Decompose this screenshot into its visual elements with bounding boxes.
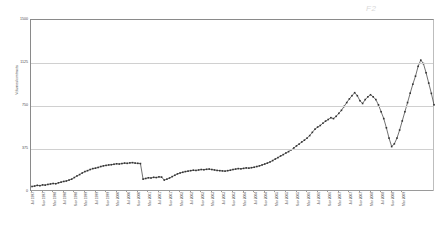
x-axis-tick-label: Nov 2007 xyxy=(360,192,364,206)
x-axis-tick-label: Jul 2003 xyxy=(223,192,227,204)
x-axis-tick-label: Jul 1998 xyxy=(64,192,68,204)
x-axis-tick-label: Nov 2005 xyxy=(297,192,301,206)
gridline xyxy=(31,149,433,150)
x-axis-tick-labels: Jul 1997Nov 1997Mar 1998Jul 1998Nov 1998… xyxy=(30,192,434,230)
x-axis-tick-label: Jul 1997 xyxy=(32,192,36,204)
x-axis-tick-label: Nov 2004 xyxy=(265,192,269,206)
x-axis-tick-label: Jul 2002 xyxy=(191,192,195,204)
x-axis-tick-label: Nov 2008 xyxy=(392,192,396,206)
x-axis-tick-label: Mar 2006 xyxy=(308,192,312,206)
gridline xyxy=(31,106,433,107)
x-axis-tick-label: Nov 2006 xyxy=(329,192,333,206)
x-axis-tick-label: Mar 2002 xyxy=(181,192,185,206)
x-axis-tick-label: Jul 2005 xyxy=(286,192,290,204)
x-axis-tick-label: Jul 2004 xyxy=(255,192,259,204)
plot-area xyxy=(30,19,434,191)
y-axis-tick-label: 0 xyxy=(0,189,28,193)
y-axis-tick-label: 375 xyxy=(0,146,28,150)
y-axis-tick-labels: 150011257503750 xyxy=(0,19,28,191)
x-axis-tick-label: Nov 1998 xyxy=(75,192,79,206)
x-axis-tick-label: Mar 2008 xyxy=(371,192,375,206)
x-axis-tick-label: Nov 1997 xyxy=(43,192,47,206)
x-axis-tick-label: Nov 2003 xyxy=(233,192,237,206)
x-axis-tick-label: Nov 1999 xyxy=(107,192,111,206)
x-axis-tick-label: Mar 2003 xyxy=(212,192,216,206)
x-axis-tick-label: Jul 1999 xyxy=(96,192,100,204)
y-axis-tick-label: 750 xyxy=(0,103,28,107)
x-axis-tick-label: Nov 2002 xyxy=(202,192,206,206)
chart-page: F2 150011257503750 Volumes/contracts Jul… xyxy=(0,0,448,231)
gridline xyxy=(31,63,433,64)
x-axis-tick-label: Mar 1999 xyxy=(85,192,89,206)
x-axis-tick-label: Mar 2009 xyxy=(403,192,407,206)
x-axis-tick-label: Jul 2007 xyxy=(350,192,354,204)
x-axis-tick-label: Mar 2007 xyxy=(339,192,343,206)
y-axis-tick-label: 1500 xyxy=(0,17,28,21)
x-axis-tick-label: Jul 2001 xyxy=(159,192,163,204)
x-axis-tick-label: Nov 2001 xyxy=(170,192,174,206)
x-axis-tick-label: Mar 2004 xyxy=(244,192,248,206)
x-axis-tick-label: Jul 2000 xyxy=(128,192,132,204)
x-axis-tick-label: Jul 2008 xyxy=(382,192,386,204)
x-axis-tick-label: Nov 2000 xyxy=(138,192,142,206)
y-axis-tick-label: 1125 xyxy=(0,60,28,64)
x-axis-tick-label: Mar 2000 xyxy=(117,192,121,206)
x-axis-tick-label: Mar 2005 xyxy=(276,192,280,206)
watermark-label: F2 xyxy=(366,4,376,13)
x-axis-tick-label: Mar 2001 xyxy=(149,192,153,206)
x-axis-tick-label: Mar 1998 xyxy=(54,192,58,206)
x-axis-tick-label: Jul 2006 xyxy=(318,192,322,204)
y-axis-title: Volumes/contracts xyxy=(15,50,19,110)
